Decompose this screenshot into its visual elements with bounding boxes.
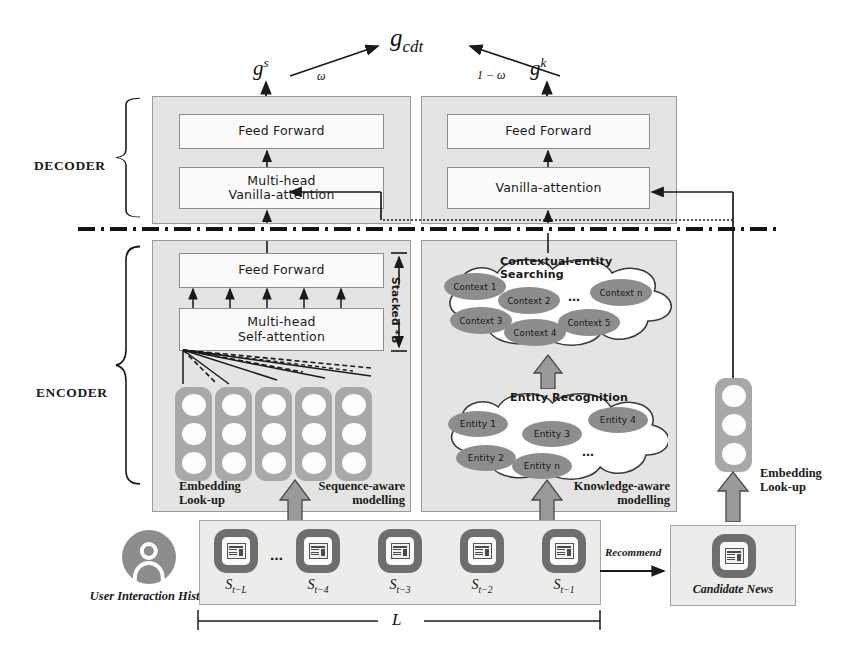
fusion-output-label: gcdt	[390, 24, 423, 57]
history-item-3[interactable]	[378, 529, 422, 573]
candidate-news-card[interactable]	[712, 534, 756, 578]
context-node-1[interactable]: Context 1	[444, 273, 506, 300]
sequence-aware-line2: modelling	[301, 493, 405, 507]
avatar-body-icon	[133, 561, 165, 583]
avatar-head-icon	[140, 542, 158, 560]
candidate-embedding-line2: Look-up	[760, 480, 822, 494]
history-ellipsis: …	[270, 548, 285, 563]
recommend-arrow	[600, 562, 672, 580]
entity-node-1-label: Entity 1	[460, 419, 496, 429]
context-node-1-label: Context 1	[453, 282, 496, 292]
token-column-2	[215, 387, 252, 481]
news-icon-4	[473, 543, 492, 559]
history-item-4[interactable]	[460, 529, 504, 573]
news-icon-2	[309, 543, 328, 559]
history-item-5-label: St−1	[542, 577, 586, 595]
stacked-label: Stacked *B	[386, 277, 402, 343]
left-encoder-panel: Feed Forward Multi-head Self-attention S…	[152, 240, 411, 512]
context-node-5[interactable]: Context 5	[558, 309, 620, 336]
candidate-embedding-lookup-caption: Embedding Look-up	[760, 466, 822, 495]
context-cloud-title: Contextual-entity Searching	[500, 255, 676, 281]
token-column-5	[335, 387, 372, 481]
candidate-news-label: Candidate News	[671, 582, 795, 597]
token-column-4	[295, 387, 332, 481]
context-node-4[interactable]: Context 4	[504, 319, 566, 346]
history-item-3-label: St−3	[378, 577, 422, 595]
history-item-2[interactable]	[296, 529, 340, 573]
news-icon-1	[227, 543, 246, 559]
entity-node-3[interactable]: Entity 3	[522, 421, 582, 447]
entity-node-2[interactable]: Entity 2	[456, 445, 516, 471]
entity-node-n[interactable]: Entity n	[512, 453, 572, 479]
history-item-5[interactable]	[542, 529, 586, 573]
candidate-embedding-line1: Embedding	[760, 466, 822, 480]
context-node-2[interactable]: Context 2	[498, 287, 560, 314]
history-item-2-label: St−4	[296, 577, 340, 595]
context-node-2-label: Context 2	[507, 296, 550, 306]
history-item-4-label: St−2	[460, 577, 504, 595]
candidate-news-panel: Candidate News	[670, 525, 796, 606]
entity-node-4-label: Entity 4	[600, 415, 636, 425]
token-column-1	[175, 387, 212, 481]
entity-cloud-title: Entity Recognition	[510, 391, 628, 404]
knowledge-aware-caption: Knowledge-aware modelling	[550, 479, 670, 508]
context-node-n-label: Context n	[599, 288, 642, 298]
sequence-aware-caption: Sequence-aware modelling	[301, 479, 405, 508]
context-node-n[interactable]: Context n	[590, 279, 652, 306]
history-panel: St−L … St−4	[199, 520, 601, 605]
self-attention-fan-lines	[153, 346, 410, 388]
context-node-3-label: Context 3	[459, 316, 502, 326]
entity-node-n-label: Entity n	[524, 461, 560, 471]
sequence-span-label: L	[392, 610, 401, 630]
news-icon-candidate	[725, 548, 744, 564]
news-icon-5	[555, 543, 574, 559]
figure-canvas: gcdt gs gk ω 1 − ω DECODER ENCODER Feed …	[0, 0, 853, 669]
entity-node-3-label: Entity 3	[534, 429, 570, 439]
candidate-embedding-column	[715, 378, 752, 472]
entity-node-1[interactable]: Entity 1	[448, 411, 508, 437]
left-embedding-lookup-caption: Embedding Look-up	[179, 479, 241, 508]
history-item-1[interactable]	[214, 529, 258, 573]
sequence-aware-line1: Sequence-aware	[301, 479, 405, 493]
user-avatar	[122, 530, 176, 584]
entity-cloud-ellipsis: …	[582, 445, 596, 459]
context-node-4-label: Context 4	[513, 328, 556, 338]
entity-node-2-label: Entity 2	[468, 453, 504, 463]
context-node-5-label: Context 5	[567, 318, 610, 328]
left-embedding-line1: Embedding	[179, 479, 241, 493]
candidate-to-embedding-arrow	[716, 470, 750, 522]
news-icon-3	[391, 543, 410, 559]
recommend-label: Recommend	[605, 546, 661, 558]
context-cloud-ellipsis: …	[568, 290, 582, 304]
entity-node-4[interactable]: Entity 4	[588, 407, 648, 433]
context-node-3[interactable]: Context 3	[450, 307, 512, 334]
left-embedding-line2: Look-up	[179, 493, 241, 507]
right-knowledge-panel: Contextual-entity Searching Context 1 Co…	[421, 240, 677, 512]
knowledge-aware-line2: modelling	[550, 493, 670, 507]
knowledge-aware-line1: Knowledge-aware	[550, 479, 670, 493]
token-column-3	[255, 387, 292, 481]
history-item-1-label: St−L	[214, 577, 258, 595]
